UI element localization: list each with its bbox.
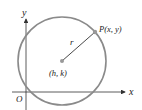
origin-label: O	[16, 94, 23, 104]
x-axis-label: x	[128, 86, 134, 97]
point-p	[93, 30, 97, 34]
point-label: P(x, y)	[98, 24, 122, 34]
y-axis-label: y	[21, 7, 27, 18]
circle-diagram: y x O r (h, k) P(x, y)	[0, 0, 142, 110]
center-label: (h, k)	[49, 68, 67, 78]
radius-label: r	[70, 37, 74, 47]
radius-line	[62, 32, 95, 61]
center-point	[60, 59, 64, 63]
